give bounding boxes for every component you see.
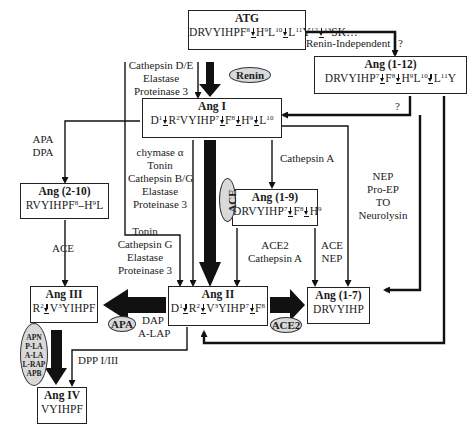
residue-number: 1 [159,114,163,122]
label-line: Proteinase 3 [128,85,194,98]
node-ang-iv-sequence: VYIHPF [38,402,86,416]
residue-text: D [150,114,158,126]
residue-number: 8 [392,72,396,80]
cleavage-site-icon [428,74,433,83]
node-ang-iv-title: Ang IV [38,388,86,402]
residue-text: YIHP [218,302,245,314]
cleavage-site-icon [304,207,309,216]
oval-apa-label: APA [111,318,133,330]
label-nep-group: NEPPro-EPTONeurolysin [354,170,412,222]
residue-text: L [96,199,103,211]
residue-number: 7 [215,114,219,122]
cleavage-site-icon [283,28,288,37]
residue-text: L [413,72,420,84]
cleavage-site-icon [380,74,385,83]
residue-number: 9 [250,114,254,122]
label-line: Pro-EP [354,183,412,196]
oval-aminopeptidases: APNP-LAA-LAL-RAPAPB [20,323,48,386]
label-line: DAP [138,314,168,327]
cleavage-site-icon [254,116,259,125]
label-line: A-LA [21,351,47,360]
residue-text: D [171,302,179,314]
node-ang-2-10-title: Ang (2-10) [21,184,108,198]
label-line: A-LAP [138,327,168,340]
label-line: Cathepsin A [244,252,306,265]
cleavage-site-icon [163,116,168,125]
residue-number: 10 [275,26,282,34]
label-line: Tonin [114,225,176,238]
residue-text: YIHPF [62,302,96,314]
residue-number: 8 [232,114,236,122]
residue-number: 2 [197,302,201,310]
residue-number: 11 [441,72,448,80]
label-line: Proteinase 3 [114,264,176,277]
residue-text: –H [78,199,92,211]
label-line: P-LA [21,342,47,351]
arrow-renin-thick [199,62,221,97]
node-ang-iv: Ang IV VYIHPF [37,387,87,424]
residue-text: R [189,302,197,314]
residue-text: V [50,302,58,314]
label-apa-dpa: APADPA [28,133,58,159]
label-dpp: DPP I/III [78,354,118,367]
cleavage-site-icon [44,304,49,313]
node-ang-i: Ang I D1R2VYIHP7F8H9L10 [142,98,282,138]
node-ang-2-10: Ang (2-10) RVYIHPF8–H9L [20,183,109,219]
node-ang-ii: Ang II D1R2V3YIHP7F8 [168,286,268,326]
label-line: Elastase [128,72,194,85]
residue-number: 8 [246,26,250,34]
oval-ace2: ACE2 [270,317,302,333]
residue-text: V [206,302,214,314]
residue-number: 9 [318,205,322,213]
node-ang-ii-title: Ang II [169,287,267,301]
label-line: Elastase [114,251,176,264]
label-line: Cathepsin B/G [128,172,192,185]
label-line: NEP [354,170,412,183]
cleavage-site-icon [319,28,324,37]
oval-ace-label: ACE [210,189,254,212]
label-line: APB [21,369,47,378]
node-atg-title: ATG [189,11,305,25]
residue-text: L [434,72,441,84]
oval-apa: APA [108,316,136,332]
node-ang-i-title: Ang I [143,99,281,113]
node-ang-1-7: Ang (1-7) DRVYIHP [307,287,370,324]
cleavage-site-icon [396,74,401,83]
residue-text: H [401,72,409,84]
residue-text: VYIHP [180,114,216,126]
residue-text: H [241,114,249,126]
label-line: NEP [320,252,344,265]
label-line: L-RAP [21,360,47,369]
residue-number: 7 [284,205,288,213]
residue-number: 12 [311,26,318,34]
label-line: Neurolysin [354,209,412,222]
cleavage-site-icon [250,304,255,313]
cleavage-site-icon [288,207,293,216]
label-question-1: ? [398,37,403,50]
node-ang-ii-sequence: D1R2V3YIHP7F8 [169,301,267,315]
label-line: Cathepsin D/E [128,59,194,72]
label-cathepsin-a: Cathepsin A [280,152,334,165]
node-ang-2-10-sequence: RVYIHPF8–H9L [21,198,108,212]
label-line: APN [21,333,47,342]
residue-number: 7 [376,72,380,80]
label-line: ACE2 [244,239,306,252]
label-question-2: ? [395,100,400,113]
label-line: DPA [28,146,58,159]
residue-text: DRVYIHPF [189,26,246,38]
arrow-to-ang-iv-thick [45,330,67,385]
residue-number: 7 [245,302,249,310]
residue-number: 10 [266,114,273,122]
node-ang-i-sequence: D1R2VYIHP7F8H9L10 [143,113,281,127]
label-line: Tonin [128,159,192,172]
label-ace-nep: ACENEP [320,239,344,265]
cleavage-site-icon [251,28,256,37]
node-ang-iii-title: Ang III [31,287,97,301]
residue-text: H [310,205,318,217]
cleavage-site-icon [236,116,241,125]
node-ang-iii-sequence: R2V3YIHPF [31,301,97,315]
residue-text: RVYIHPF [26,199,75,211]
oval-ace2-label: ACE2 [272,319,301,331]
label-line: Elastase [128,185,192,198]
label-cathepsin-de: Cathepsin D/EElastaseProteinase 3 [128,59,194,98]
